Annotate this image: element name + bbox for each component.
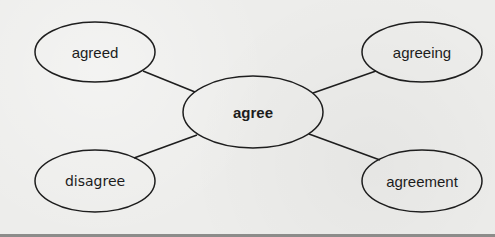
node-disagree-label: disagree [65,173,125,189]
bottom-divider [0,234,495,237]
node-center-agree: agree [183,76,323,148]
node-center-label: agree [233,104,273,121]
node-agreeing-label: agreeing [393,44,451,61]
node-agreement: agreement [362,150,482,212]
word-web-diagram: agreed agreeing disagree agreement agree [0,0,495,237]
edge-disagree-agree [134,135,197,158]
edge-agreed-agree [143,71,195,92]
node-agreed: agreed [35,22,155,82]
node-agreed-label: agreed [72,44,119,61]
edge-agreeing-agree [313,71,376,93]
edge-agreement-agree [309,134,380,160]
node-disagree: disagree [35,150,155,212]
node-agreeing: agreeing [362,22,482,82]
node-agreement-label: agreement [386,173,459,190]
